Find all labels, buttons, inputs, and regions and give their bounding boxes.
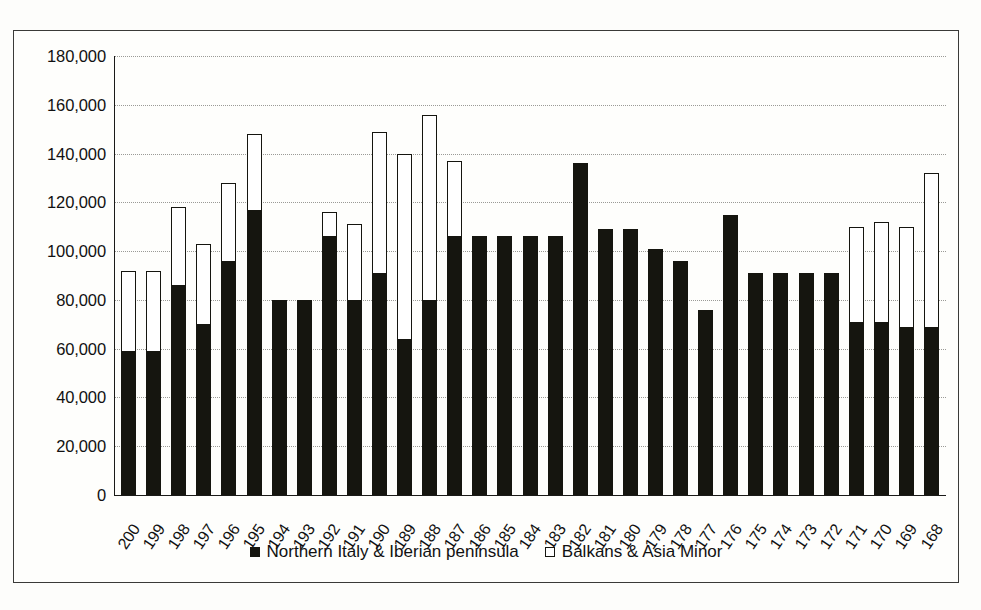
stacked-bar[interactable] xyxy=(171,207,186,495)
bar-segment-northern-italy-iberian[interactable] xyxy=(247,210,262,495)
legend-entry[interactable]: Northern Italy & Iberian peninsula xyxy=(250,543,519,560)
bar-segment-balkans-asia-minor[interactable] xyxy=(924,173,939,327)
bar-column xyxy=(267,56,292,495)
stacked-bar[interactable] xyxy=(924,173,939,495)
stacked-bar[interactable] xyxy=(573,163,588,495)
bar-segment-balkans-asia-minor[interactable] xyxy=(322,212,337,236)
stacked-bar[interactable] xyxy=(598,229,613,495)
bar-segment-northern-italy-iberian[interactable] xyxy=(698,310,713,495)
bar-segment-northern-italy-iberian[interactable] xyxy=(623,229,638,495)
bar-segment-balkans-asia-minor[interactable] xyxy=(447,161,462,237)
bar-segment-balkans-asia-minor[interactable] xyxy=(397,154,412,339)
open-square-icon xyxy=(545,547,555,557)
bar-segment-northern-italy-iberian[interactable] xyxy=(171,285,186,495)
bar-segment-northern-italy-iberian[interactable] xyxy=(748,273,763,495)
stacked-bar[interactable] xyxy=(146,271,161,495)
stacked-bar[interactable] xyxy=(447,161,462,495)
bar-segment-northern-italy-iberian[interactable] xyxy=(799,273,814,495)
bar-segment-northern-italy-iberian[interactable] xyxy=(723,215,738,495)
bar-segment-northern-italy-iberian[interactable] xyxy=(548,236,563,495)
bar-segment-balkans-asia-minor[interactable] xyxy=(849,227,864,322)
bar-column xyxy=(819,56,844,495)
bar-segment-balkans-asia-minor[interactable] xyxy=(874,222,889,322)
stacked-bar[interactable] xyxy=(648,249,663,495)
bar-segment-northern-italy-iberian[interactable] xyxy=(196,324,211,495)
stacked-bar[interactable] xyxy=(698,310,713,495)
bar-segment-northern-italy-iberian[interactable] xyxy=(874,322,889,495)
bar-segment-northern-italy-iberian[interactable] xyxy=(347,300,362,495)
bar-segment-northern-italy-iberian[interactable] xyxy=(372,273,387,495)
bar-segment-balkans-asia-minor[interactable] xyxy=(221,183,236,261)
bar-segment-northern-italy-iberian[interactable] xyxy=(397,339,412,495)
bar-segment-northern-italy-iberian[interactable] xyxy=(924,327,939,495)
bar-segment-northern-italy-iberian[interactable] xyxy=(121,351,136,495)
stacked-bar[interactable] xyxy=(523,236,538,495)
bar-segment-balkans-asia-minor[interactable] xyxy=(121,271,136,351)
bar-segment-northern-italy-iberian[interactable] xyxy=(146,351,161,495)
bar-segment-northern-italy-iberian[interactable] xyxy=(648,249,663,495)
bar-segment-northern-italy-iberian[interactable] xyxy=(849,322,864,495)
legend-entry[interactable]: Balkans & Asia Minor xyxy=(545,543,723,560)
stacked-bar[interactable] xyxy=(497,236,512,495)
bar-segment-northern-italy-iberian[interactable] xyxy=(497,236,512,495)
bar-column xyxy=(518,56,543,495)
bar-segment-balkans-asia-minor[interactable] xyxy=(247,134,262,210)
bar-segment-balkans-asia-minor[interactable] xyxy=(347,224,362,300)
bar-column xyxy=(492,56,517,495)
stacked-bar[interactable] xyxy=(623,229,638,495)
bar-segment-northern-italy-iberian[interactable] xyxy=(598,229,613,495)
bar-segment-balkans-asia-minor[interactable] xyxy=(171,207,186,285)
stacked-bar[interactable] xyxy=(272,300,287,495)
stacked-bar[interactable] xyxy=(121,271,136,495)
bar-column xyxy=(794,56,819,495)
stacked-bar[interactable] xyxy=(297,300,312,495)
stacked-bar[interactable] xyxy=(824,273,839,495)
bar-column xyxy=(693,56,718,495)
bar-segment-northern-italy-iberian[interactable] xyxy=(322,236,337,495)
stacked-bar[interactable] xyxy=(397,154,412,495)
stacked-bar[interactable] xyxy=(196,244,211,495)
stacked-bar[interactable] xyxy=(874,222,889,495)
bar-column xyxy=(141,56,166,495)
bar-segment-northern-italy-iberian[interactable] xyxy=(523,236,538,495)
y-axis-tick-label: 140,000 xyxy=(47,144,106,163)
bar-segment-northern-italy-iberian[interactable] xyxy=(297,300,312,495)
bar-segment-northern-italy-iberian[interactable] xyxy=(221,261,236,495)
bar-column xyxy=(543,56,568,495)
stacked-bar[interactable] xyxy=(723,215,738,495)
bar-segment-northern-italy-iberian[interactable] xyxy=(673,261,688,495)
bar-segment-northern-italy-iberian[interactable] xyxy=(422,300,437,495)
bar-column xyxy=(116,56,141,495)
bar-group xyxy=(114,56,946,495)
stacked-bar[interactable] xyxy=(247,134,262,495)
stacked-bar[interactable] xyxy=(899,227,914,495)
stacked-bar[interactable] xyxy=(221,183,236,495)
stacked-bar[interactable] xyxy=(548,236,563,495)
stacked-bar[interactable] xyxy=(322,212,337,495)
bar-segment-northern-italy-iberian[interactable] xyxy=(472,236,487,495)
stacked-bar[interactable] xyxy=(748,273,763,495)
bar-segment-balkans-asia-minor[interactable] xyxy=(422,115,437,300)
bar-segment-balkans-asia-minor[interactable] xyxy=(899,227,914,327)
stacked-bar[interactable] xyxy=(799,273,814,495)
bar-segment-balkans-asia-minor[interactable] xyxy=(372,132,387,273)
stacked-bar[interactable] xyxy=(372,132,387,495)
bar-segment-northern-italy-iberian[interactable] xyxy=(573,163,588,495)
stacked-bar[interactable] xyxy=(849,227,864,495)
bar-segment-northern-italy-iberian[interactable] xyxy=(899,327,914,495)
bar-segment-northern-italy-iberian[interactable] xyxy=(773,273,788,495)
stacked-bar[interactable] xyxy=(347,224,362,495)
stacked-bar[interactable] xyxy=(773,273,788,495)
bar-segment-balkans-asia-minor[interactable] xyxy=(146,271,161,351)
bar-segment-balkans-asia-minor[interactable] xyxy=(196,244,211,324)
bar-segment-northern-italy-iberian[interactable] xyxy=(447,236,462,495)
stacked-bar[interactable] xyxy=(472,236,487,495)
bar-column xyxy=(768,56,793,495)
stacked-bar[interactable] xyxy=(422,115,437,495)
bar-column xyxy=(392,56,417,495)
bar-segment-northern-italy-iberian[interactable] xyxy=(272,300,287,495)
y-axis-tick-label: 120,000 xyxy=(47,193,106,212)
bar-column xyxy=(367,56,392,495)
stacked-bar[interactable] xyxy=(673,261,688,495)
bar-segment-northern-italy-iberian[interactable] xyxy=(824,273,839,495)
